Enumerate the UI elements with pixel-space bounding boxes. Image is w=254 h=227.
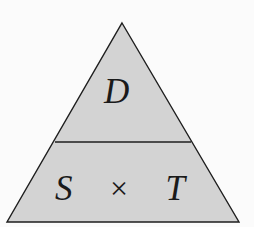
top-variable-label: D: [104, 74, 129, 109]
left-variable-label: S: [55, 171, 73, 206]
formula-triangle-diagram: D S × T: [0, 0, 254, 227]
multiply-operator: ×: [110, 172, 128, 204]
right-variable-label: T: [166, 171, 185, 206]
bottom-section: S × T: [55, 170, 185, 206]
